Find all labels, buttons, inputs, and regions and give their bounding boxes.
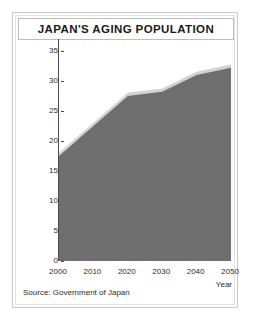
y-tick-10: 10 [20,196,64,206]
x-tick-2050: 2050 [210,267,250,277]
chart-card: JAPAN'S AGING POPULATION People over 65 … [12,12,238,308]
chart-figure: JAPAN'S AGING POPULATION People over 65 … [0,0,254,327]
axes: People over 65 as % of total population … [58,51,230,261]
chart-title-box: JAPAN'S AGING POPULATION [18,18,234,40]
area-series [59,39,231,261]
x-axis-label: Year [216,280,232,289]
y-tick-35: 35 [20,46,64,56]
source-note: Source: Government of Japan [23,288,130,297]
y-tick-15: 15 [20,166,64,176]
x-tick-label: 2050 [210,267,250,277]
page-title: JAPAN'S AGING POPULATION [38,23,214,35]
y-tick-5: 5 [20,226,64,236]
plot-area: People over 65 as % of total population … [18,43,234,275]
area-fill [59,68,231,261]
y-tick-20: 20 [20,136,64,146]
y-tick-30: 30 [20,76,64,86]
y-tick-25: 25 [20,106,64,116]
